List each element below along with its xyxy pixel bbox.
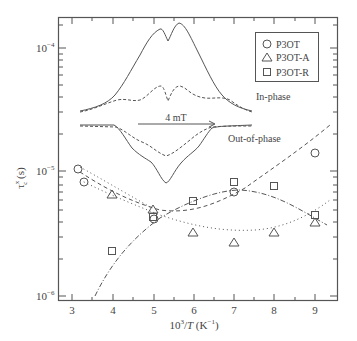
p3ot-r-dashdot-fit: [95, 190, 327, 296]
in-phase-label: In-phase: [256, 91, 291, 102]
data-point: [74, 165, 82, 173]
out-of-phase-solid-curve: [80, 125, 252, 183]
data-point: [271, 183, 278, 190]
data-point: [188, 228, 198, 236]
x-tick-label: 8: [271, 304, 277, 316]
p3ot-hi-dotted-fit: [80, 167, 152, 208]
inset-spectra: [80, 23, 252, 183]
x-tick-label: 7: [231, 304, 237, 316]
x-tick-label: 3: [69, 304, 75, 316]
y-tick-label: 10−5: [36, 164, 55, 177]
x-tick-label: 6: [191, 304, 197, 316]
y-tick-label: 10−4: [36, 41, 55, 54]
data-point: [311, 149, 319, 157]
legend: P3OT P3OT-A P3OT-R: [256, 33, 319, 82]
p3ot-a-markers: [107, 190, 320, 246]
legend-label-p3ot-a: P3OT-A: [276, 52, 310, 63]
x-tick-label: 9: [312, 304, 318, 316]
in-phase-solid-curve: [80, 23, 252, 111]
fit-curves: [80, 125, 330, 296]
scale-bar-label: 4 mT: [165, 112, 186, 123]
x-tick-label: 4: [110, 304, 116, 316]
legend-label-p3ot: P3OT: [276, 39, 300, 50]
out-of-phase-label: Out-of-phase: [228, 133, 281, 144]
p3ot-r-markers: [109, 179, 319, 255]
legend-label-p3ot-r: P3OT-R: [276, 67, 309, 78]
p3ot-markers: [74, 149, 319, 223]
data-point: [231, 179, 238, 186]
x-axis-title: 103/T (K−1): [169, 318, 219, 332]
data-point: [229, 238, 239, 246]
x-tick-labels: 3 4 5 6 7 8 9: [69, 304, 318, 316]
x-tick-label: 5: [151, 304, 157, 316]
y-tick-labels: 10−6 10−5 10−4: [36, 41, 55, 302]
data-point: [269, 228, 279, 236]
data-point: [190, 198, 197, 205]
chart: 3 4 5 6 7 8 9 10−6 10−5 10−4 103/T (K−1)…: [0, 0, 357, 341]
out-of-phase-dashed-curve: [80, 126, 252, 156]
data-point: [310, 218, 320, 226]
data-point: [109, 248, 116, 255]
y-axis-title: τxc (s): [13, 167, 29, 189]
y-tick-label: 10−6: [36, 289, 55, 302]
